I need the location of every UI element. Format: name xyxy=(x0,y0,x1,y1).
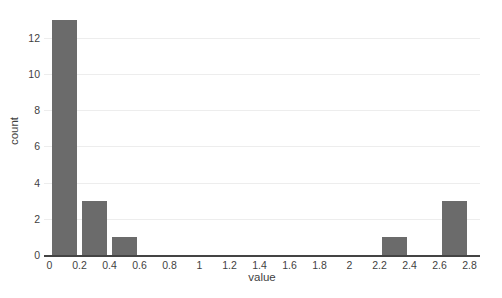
y-tick-label: 10 xyxy=(14,67,40,81)
y-tick-label: 4 xyxy=(14,176,40,190)
histogram-bar xyxy=(112,237,137,255)
x-tick-label: 2.8 xyxy=(452,258,488,272)
histogram-bar xyxy=(382,237,407,255)
y-tick-label: 12 xyxy=(14,31,40,45)
y-tick-label: 0 xyxy=(14,248,40,262)
x-axis-line xyxy=(44,255,480,257)
y-tick-label: 2 xyxy=(14,212,40,226)
grid-line xyxy=(44,110,480,111)
grid-line xyxy=(44,38,480,39)
histogram-bar xyxy=(442,201,467,255)
x-axis-title: value xyxy=(222,271,302,283)
histogram-bar xyxy=(52,20,77,255)
histogram-bar xyxy=(82,201,107,255)
grid-line xyxy=(44,219,480,220)
grid-line xyxy=(44,183,480,184)
histogram-figure: 00.20.40.60.811.21.41.61.822.22.42.62.80… xyxy=(0,0,502,298)
y-axis-title: count xyxy=(8,101,24,161)
grid-line xyxy=(44,146,480,147)
grid-line xyxy=(44,74,480,75)
